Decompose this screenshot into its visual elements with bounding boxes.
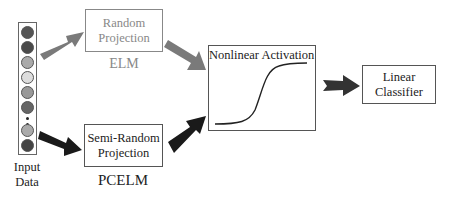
sigmoid-curve [209, 46, 317, 132]
linear-classifier-line2: Classifier [375, 85, 423, 99]
input-node-6 [21, 101, 34, 114]
arrow-input-to-semi-random-projection [38, 131, 82, 156]
random-projection-line2: Projection [98, 31, 149, 45]
input-node-1 [21, 26, 34, 39]
random-projection-box: Random Projection [85, 9, 163, 52]
arrow-input-to-random-projection [40, 32, 84, 60]
elm-caption: ELM [100, 56, 148, 72]
input-label-line2: Data [0, 175, 54, 190]
arrow-semi-random-projection-to-activation [168, 116, 206, 153]
input-data-label: Input Data [0, 160, 54, 190]
nonlinear-activation-box: Nonlinear Activation [208, 45, 316, 131]
linear-classifier-line1: Linear [383, 70, 416, 84]
semi-random-projection-line2: Projection [98, 146, 149, 160]
input-node-4 [21, 71, 34, 84]
semi-random-projection-box: Semi-Random Projection [84, 124, 163, 167]
input-label-line1: Input [0, 160, 54, 175]
semi-random-projection-line1: Semi-Random [87, 131, 159, 145]
input-node-7 [21, 124, 34, 137]
input-node-2 [21, 41, 34, 54]
random-projection-line1: Random [103, 16, 145, 30]
ellipsis-dot [26, 117, 29, 120]
pcelm-caption: PCELM [90, 172, 156, 189]
input-node-8 [21, 139, 34, 152]
arrow-activation-to-classifier [323, 75, 360, 96]
input-node-3 [21, 56, 34, 69]
arrow-random-projection-to-activation [164, 40, 206, 70]
input-node-5 [21, 86, 34, 99]
linear-classifier-box: Linear Classifier [362, 65, 436, 104]
input-data-vector [18, 22, 37, 155]
